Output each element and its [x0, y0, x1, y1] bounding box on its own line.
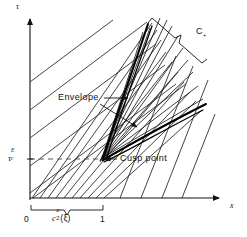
- brace-label-superscript: o: [56, 208, 59, 214]
- y-axis-label: τ: [16, 3, 19, 11]
- envelope-annotation-label: Envelope: [58, 93, 99, 102]
- figure-vector-layer: [0, 0, 247, 237]
- cusp-point-annotation-label: Cusp point: [120, 154, 167, 163]
- x-tick-one-label: 1: [100, 215, 105, 224]
- y-tick-tau-label: τEc: [8, 152, 15, 162]
- y-tick-tau-subscript: c: [11, 156, 13, 162]
- brace-label-scripts: o2: [56, 212, 60, 221]
- c-plus-family-label: C+: [196, 27, 206, 38]
- x-range-brace-label: co2(ξ): [52, 212, 71, 222]
- envelope-branch-upper: [103, 24, 148, 160]
- c-plus-base: C: [196, 26, 203, 36]
- brace-label-subscript: 2: [56, 216, 59, 222]
- y-tick-tau-superscript: E: [11, 148, 14, 154]
- y-tick-tau-scripts: Ec: [11, 152, 15, 161]
- x-tick-origin-label: 0: [24, 215, 29, 224]
- brace-label-argument: (ξ): [60, 213, 71, 223]
- figure-canvas: τ x 0 1 τEc co2(ξ) Envelope Cusp point C…: [0, 0, 247, 237]
- x-axis-label: x: [230, 202, 234, 210]
- c-plus-subscript: +: [203, 32, 206, 38]
